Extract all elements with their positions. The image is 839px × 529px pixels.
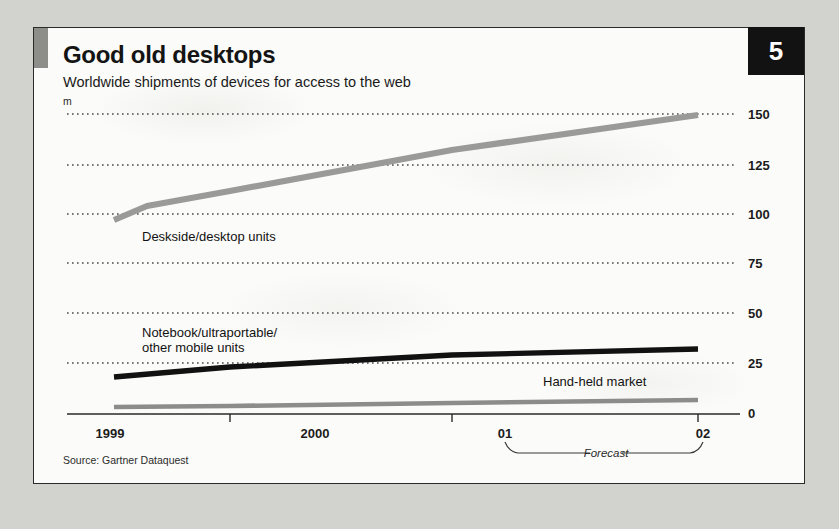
- x-tick-label-01: 01: [498, 426, 512, 441]
- series-label-notebook-line1: Notebook/ultraportable/: [142, 325, 278, 340]
- chart-plot-area: 150 125 100 75 50 25 0 Deskside/desktop …: [34, 28, 806, 485]
- page-background: 5 Good old desktops Worldwide shipments …: [0, 0, 839, 529]
- x-axis-ticks: [230, 414, 698, 422]
- series-label-handheld: Hand-held market: [543, 374, 647, 389]
- series-line-desktop: [114, 115, 698, 220]
- forecast-bracket-right: [622, 442, 703, 453]
- y-axis-labels: 150 125 100 75 50 25 0: [748, 107, 770, 421]
- x-tick-label-2000: 2000: [301, 426, 330, 441]
- series-label-desktop: Deskside/desktop units: [142, 229, 276, 244]
- y-tick-125: 125: [748, 158, 770, 173]
- y-tick-75: 75: [748, 256, 762, 271]
- series-line-handheld: [114, 400, 698, 407]
- y-tick-0: 0: [748, 406, 755, 421]
- y-tick-50: 50: [748, 306, 762, 321]
- y-tick-100: 100: [748, 207, 770, 222]
- chart-card: 5 Good old desktops Worldwide shipments …: [33, 27, 805, 484]
- series-label-notebook-line2: other mobile units: [142, 340, 245, 355]
- source-note: Source: Gartner Dataquest: [63, 454, 188, 466]
- forecast-bracket-left: [505, 442, 590, 453]
- x-axis-labels: 1999 2000 01 02: [96, 426, 711, 441]
- x-tick-label-02: 02: [696, 426, 710, 441]
- x-tick-label-1999: 1999: [96, 426, 125, 441]
- forecast-label: Forecast: [584, 447, 630, 459]
- y-tick-25: 25: [748, 356, 762, 371]
- y-tick-150: 150: [748, 107, 770, 122]
